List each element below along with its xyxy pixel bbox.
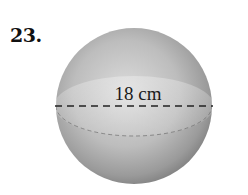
diameter-label: 18 cm: [115, 83, 162, 104]
sphere-diagram: 18 cm: [0, 0, 248, 195]
